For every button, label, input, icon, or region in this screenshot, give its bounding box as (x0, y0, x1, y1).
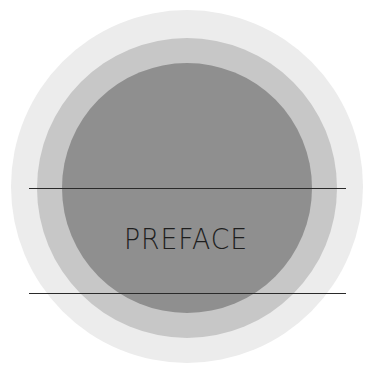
top-rule-line (29, 188, 346, 189)
bottom-rule-line (29, 293, 346, 294)
preface-title: PREFACE (15, 222, 357, 256)
